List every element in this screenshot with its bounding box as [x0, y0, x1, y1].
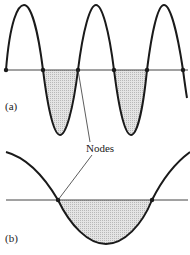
leader-line-b — [58, 155, 92, 200]
standing-wave-diagram — [0, 0, 190, 255]
panel-label-a: (a) — [5, 100, 17, 112]
leader-line-a — [78, 70, 90, 142]
nodes-annotation: Nodes — [86, 142, 114, 154]
panel-label-b: (b) — [5, 232, 18, 244]
